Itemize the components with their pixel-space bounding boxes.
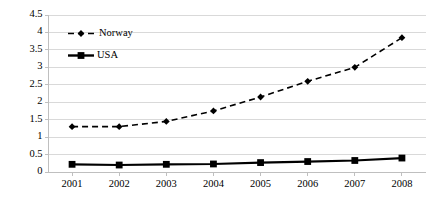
series-line-norway bbox=[72, 38, 402, 127]
chart-canvas bbox=[0, 0, 437, 206]
data-point-usa-2004 bbox=[210, 161, 217, 168]
y-tick-label-2.5: 2.5 bbox=[29, 79, 42, 90]
x-tick-label-2006: 2006 bbox=[288, 179, 328, 190]
y-tick-label-3: 3 bbox=[37, 61, 42, 72]
series-usa bbox=[69, 155, 406, 169]
y-tick-label-4: 4 bbox=[37, 26, 42, 37]
y-tick-label-1.5: 1.5 bbox=[29, 114, 42, 125]
data-point-usa-2008 bbox=[399, 155, 406, 162]
data-point-norway-2005 bbox=[257, 94, 264, 101]
data-point-usa-2003 bbox=[163, 161, 170, 168]
data-point-norway-2004 bbox=[210, 108, 217, 115]
y-tick-label-0.5: 0.5 bbox=[29, 149, 42, 160]
x-tick-label-2008: 2008 bbox=[382, 179, 422, 190]
legend-label-usa: USA bbox=[97, 50, 118, 61]
x-tick-label-2001: 2001 bbox=[52, 179, 92, 190]
y-tick-label-0: 0 bbox=[37, 166, 42, 177]
data-point-usa-2007 bbox=[351, 157, 358, 164]
y-tick-label-3.5: 3.5 bbox=[29, 44, 42, 55]
data-point-usa-2002 bbox=[116, 162, 123, 169]
grid-lines bbox=[49, 15, 426, 172]
x-tick-label-2004: 2004 bbox=[193, 179, 233, 190]
data-point-usa-2001 bbox=[69, 161, 76, 168]
data-point-norway-2002 bbox=[116, 123, 123, 130]
data-point-norway-2006 bbox=[304, 78, 311, 85]
series-norway bbox=[69, 34, 406, 130]
x-tick-label-2003: 2003 bbox=[146, 179, 186, 190]
legend-label-norway: Norway bbox=[99, 28, 133, 39]
y-tick-label-1: 1 bbox=[37, 131, 42, 142]
y-tick-label-4.5: 4.5 bbox=[29, 9, 42, 20]
x-tick-label-2007: 2007 bbox=[335, 179, 375, 190]
data-point-usa-2006 bbox=[304, 158, 311, 165]
data-point-norway-2003 bbox=[163, 118, 170, 125]
line-chart: 00.511.522.533.544.5 2001200220032004200… bbox=[0, 0, 437, 206]
x-tick-label-2002: 2002 bbox=[99, 179, 139, 190]
y-tick-label-2: 2 bbox=[37, 96, 42, 107]
data-point-usa-2005 bbox=[257, 159, 264, 166]
x-tick-label-2005: 2005 bbox=[241, 179, 281, 190]
data-point-norway-2001 bbox=[69, 123, 76, 130]
